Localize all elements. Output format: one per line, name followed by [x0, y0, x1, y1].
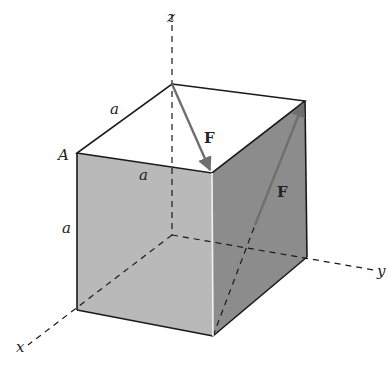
edge-label-side: a [62, 219, 71, 237]
force-label-top: F [204, 129, 215, 147]
force-label-diagonal: F [277, 183, 288, 201]
cube-force-diagram: z x y A a a a F F [0, 0, 388, 368]
vertex-label-a: A [56, 146, 69, 164]
edge-label-top: a [110, 100, 119, 118]
edge-label-front: a [139, 166, 148, 184]
front-right-edge [212, 173, 213, 336]
x-axis-label: x [16, 338, 25, 356]
y-axis-label: y [376, 262, 386, 280]
z-axis-label: z [166, 8, 175, 26]
